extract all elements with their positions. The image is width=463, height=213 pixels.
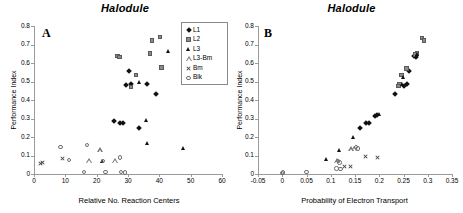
y-tick-label: 0.8 [232, 23, 254, 30]
legend-marker-cross-icon [184, 63, 193, 72]
panel-b-x-axis-label: Probability of Electron Transport [232, 196, 463, 205]
x-tick-label: 0.25 [391, 178, 417, 185]
x-tick-label: 10 [52, 178, 78, 185]
y-tick [31, 100, 34, 101]
y-tick [31, 156, 34, 157]
legend-item-bm[interactable]: Bm [184, 63, 224, 73]
x-tick-label: 0 [21, 178, 47, 185]
legend-marker-filled-square-icon [184, 35, 193, 44]
x-tick-label: -0.05 [245, 178, 271, 185]
panel-a-title: Halodule [0, 2, 232, 14]
y-tick-label: 0.3 [232, 115, 254, 122]
y-tick [31, 26, 34, 27]
y-tick-label: 0.4 [8, 97, 30, 104]
x-tick-label: 0.3 [415, 178, 441, 185]
y-tick-label: 0.1 [232, 152, 254, 159]
figure-container: Halodule A Performance Index Relative No… [0, 0, 463, 213]
x-tick-label: 0.1 [318, 178, 344, 185]
y-tick-label: 0.7 [232, 41, 254, 48]
y-tick [255, 63, 258, 64]
panel-a: Halodule A Performance Index Relative No… [0, 0, 232, 213]
y-tick [255, 26, 258, 27]
legend-label: Blk [193, 74, 202, 81]
y-tick [255, 100, 258, 101]
panel-a-x-axis-label: Relative No. Reaction Centers [0, 196, 232, 205]
y-tick-label: 0.6 [232, 60, 254, 67]
y-tick-label: 0.4 [232, 97, 254, 104]
y-tick [255, 119, 258, 120]
y-tick-label: 0.7 [8, 41, 30, 48]
x-tick-label: 40 [146, 178, 172, 185]
y-tick-label: 0.5 [232, 78, 254, 85]
legend-label: L3 [193, 46, 200, 53]
legend: L1L2L3L3-BmBmBlk [181, 22, 228, 85]
y-tick-label: 0.8 [8, 23, 30, 30]
x-tick-label: 0 [269, 178, 295, 185]
y-axis-line [258, 26, 259, 174]
legend-label: L3-Bm [193, 55, 212, 62]
panel-b: Halodule B Performance Index Probability… [232, 0, 463, 213]
y-tick [255, 137, 258, 138]
legend-marker-filled-diamond-icon [184, 25, 193, 34]
y-tick-label: 0.1 [8, 152, 30, 159]
x-tick-label: 20 [84, 178, 110, 185]
y-axis-line [34, 26, 35, 174]
legend-label: L1 [193, 27, 200, 34]
x-tick-label: 50 [178, 178, 204, 185]
y-tick [255, 45, 258, 46]
y-tick-label: 0 [8, 171, 30, 178]
x-tick-label: 30 [115, 178, 141, 185]
y-tick-label: 0.3 [8, 115, 30, 122]
y-tick-label: 0.5 [8, 78, 30, 85]
x-tick-label: 0.2 [366, 178, 392, 185]
legend-item-l3-bm[interactable]: L3-Bm [184, 54, 224, 64]
x-tick-label: 0.05 [294, 178, 320, 185]
legend-item-l1[interactable]: L1 [184, 25, 224, 35]
panel-b-plot-area: 00.10.20.30.40.50.60.70.8-0.0500.050.10.… [258, 26, 452, 174]
y-tick [255, 156, 258, 157]
y-tick [31, 82, 34, 83]
y-tick-label: 0.6 [8, 60, 30, 67]
y-tick [31, 119, 34, 120]
legend-label: Bm [193, 65, 203, 72]
x-tick-label: 0.15 [342, 178, 368, 185]
y-tick [31, 63, 34, 64]
x-tick-label: 0.35 [439, 178, 463, 185]
legend-item-blk[interactable]: Blk [184, 73, 224, 83]
legend-item-l2[interactable]: L2 [184, 35, 224, 45]
legend-marker-open-triangle-icon [184, 54, 193, 63]
y-tick-label: 0.2 [232, 134, 254, 141]
y-tick [31, 137, 34, 138]
y-tick-label: 0.2 [8, 134, 30, 141]
legend-marker-filled-triangle-icon [184, 44, 193, 53]
panel-b-title: Halodule [232, 2, 463, 14]
legend-marker-open-circle-icon [184, 73, 193, 82]
y-tick [31, 45, 34, 46]
y-tick [255, 82, 258, 83]
legend-item-l3[interactable]: L3 [184, 44, 224, 54]
legend-label: L2 [193, 36, 200, 43]
